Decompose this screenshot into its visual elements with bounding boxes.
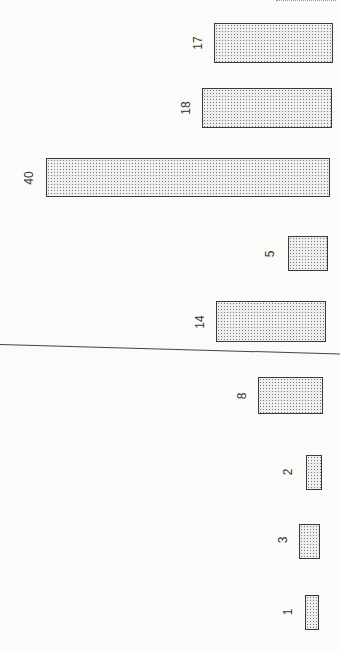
bar-label-8: 8 [236, 384, 248, 408]
bar-40 [46, 158, 330, 197]
bar-14 [216, 301, 326, 342]
bar-label-3: 3 [277, 528, 289, 552]
bar-label-18: 18 [180, 96, 192, 120]
bar-3 [299, 524, 320, 559]
bar-label-2: 2 [282, 460, 294, 484]
bar-2 [306, 455, 322, 490]
bar-18 [202, 88, 332, 128]
bar-17 [214, 23, 333, 63]
bar-5 [288, 236, 328, 271]
bar-label-14: 14 [194, 310, 206, 334]
cropped-text-edge [276, 0, 336, 4]
bar-1 [305, 595, 319, 630]
bar-label-5: 5 [264, 242, 276, 266]
bar-label-1: 1 [282, 600, 294, 624]
bar-label-40: 40 [23, 166, 35, 190]
group-separator-line [0, 344, 340, 355]
bar-label-17: 17 [192, 31, 204, 55]
bar-8 [258, 377, 323, 414]
